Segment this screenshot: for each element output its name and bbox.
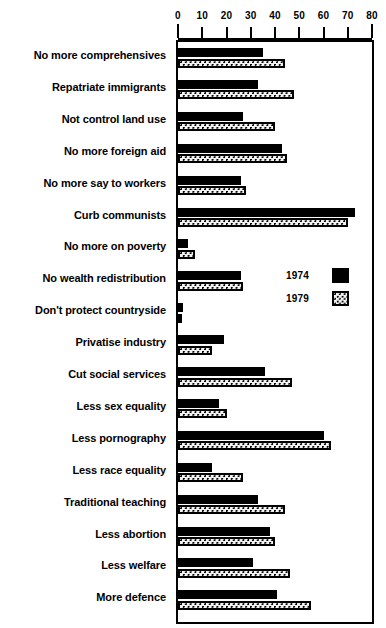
x-tick-label-60: 60 [318,11,330,21]
bar-1974-9 [178,335,224,344]
bar-1979-16 [178,569,290,578]
category-label-9: Privatise industry [75,336,166,348]
category-label-2: Not control land use [62,113,166,125]
bar-1979-2 [178,122,275,131]
category-label-5: Curb communists [74,209,166,221]
bar-1979-4 [178,186,246,195]
category-label-6: No more on poverty [64,240,166,252]
bar-1974-8 [178,303,183,312]
category-label-3: No more foreign aid [64,145,166,157]
legend-swatch-1979-icon [332,291,349,306]
category-label-4: No more say to workers [43,177,166,189]
x-tick-30 [250,27,252,38]
legend-item-1974: 1974 [286,268,358,284]
bar-1979-15 [178,537,275,546]
x-tick-label-0: 0 [175,11,181,21]
bar-1974-17 [178,590,277,599]
category-label-11: Less sex equality [77,400,166,412]
bar-1974-4 [178,176,241,185]
bar-1974-5 [178,208,355,217]
category-label-1: Repatriate immigrants [52,81,166,93]
bar-1974-12 [178,431,324,440]
bar-1979-6 [178,250,195,259]
bar-1979-11 [178,409,227,418]
x-tick-50 [298,27,300,38]
bars-container [178,40,372,624]
bar-1979-9 [178,346,212,355]
x-tick-0 [177,24,179,38]
x-tick-10 [201,27,203,38]
category-labels: No more comprehensivesRepatriate immigra… [0,40,174,624]
bar-1974-2 [178,112,243,121]
x-tick-70 [347,27,349,38]
bar-1974-3 [178,144,282,153]
category-label-7: No wealth redistribution [43,272,167,284]
x-tick-label-40: 40 [269,11,281,21]
x-tick-label-30: 30 [245,11,257,21]
legend: 1974 1979 [286,268,358,314]
bar-1979-12 [178,441,331,450]
x-tick-60 [323,27,325,38]
bar-1974-13 [178,463,212,472]
bar-1979-17 [178,601,311,610]
legend-label-1979: 1979 [286,293,309,305]
bar-1979-10 [178,378,292,387]
x-tick-label-20: 20 [221,11,233,21]
x-tick-80 [371,24,373,38]
bar-1974-6 [178,239,188,248]
bar-1979-0 [178,59,285,68]
category-label-8: Don't protect countryside [35,304,166,316]
bar-1974-11 [178,399,219,408]
x-tick-label-10: 10 [196,11,208,21]
category-label-17: More defence [96,591,166,603]
bar-1979-5 [178,218,348,227]
x-tick-label-70: 70 [342,11,354,21]
category-label-12: Less pornography [72,432,166,444]
bar-1979-13 [178,473,243,482]
x-tick-label-50: 50 [293,11,305,21]
category-label-13: Less race equality [72,464,166,476]
category-label-10: Cut social services [68,368,166,380]
x-tick-20 [226,27,228,38]
bar-1979-1 [178,90,294,99]
bar-1979-14 [178,505,285,514]
chart-root: 01020304050607080 No more comprehensives… [0,0,386,628]
bar-1974-10 [178,367,265,376]
x-tick-label-80: 80 [366,11,378,21]
bar-1974-0 [178,48,263,57]
bar-1979-3 [178,154,287,163]
category-label-0: No more comprehensives [34,49,166,61]
legend-item-1979: 1979 [286,291,358,307]
bar-1974-7 [178,271,241,280]
category-label-15: Less abortion [95,528,166,540]
bar-1974-1 [178,80,258,89]
legend-label-1974: 1974 [286,270,309,282]
bar-1974-15 [178,527,270,536]
legend-swatch-1974-icon [332,268,349,283]
bar-1974-14 [178,495,258,504]
bar-1979-8 [178,314,182,323]
bar-1979-7 [178,282,243,291]
x-tick-40 [274,27,276,38]
bar-1974-16 [178,558,253,567]
category-label-16: Less welfare [101,559,166,571]
category-label-14: Traditional teaching [64,496,166,508]
